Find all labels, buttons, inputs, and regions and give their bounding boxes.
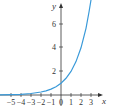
x-tick-label: −1 [47, 98, 56, 107]
y-tick-label: 6 [52, 20, 56, 29]
y-axis-arrow-icon [59, 3, 63, 8]
x-tick-label: 1 [69, 98, 73, 107]
x-tick-label: −4 [17, 98, 26, 107]
x-tick-label: 0 [59, 98, 63, 107]
x-tick-label: −2 [37, 98, 46, 107]
x-tick-label: 3 [89, 98, 93, 107]
x-tick-label: −5 [7, 98, 16, 107]
y-axis-label: y [51, 1, 56, 11]
x-tick-label: −3 [27, 98, 36, 107]
y-tick-label: 2 [52, 67, 56, 76]
x-tick-label: 2 [79, 98, 83, 107]
x-axis-label: x [101, 96, 106, 106]
y-tick-label: 4 [52, 43, 56, 52]
exponential-chart: −5 −4 −3 −2 −1 0 1 2 3 2 4 6 x y [0, 0, 121, 109]
exponential-curve [0, 0, 91, 95]
